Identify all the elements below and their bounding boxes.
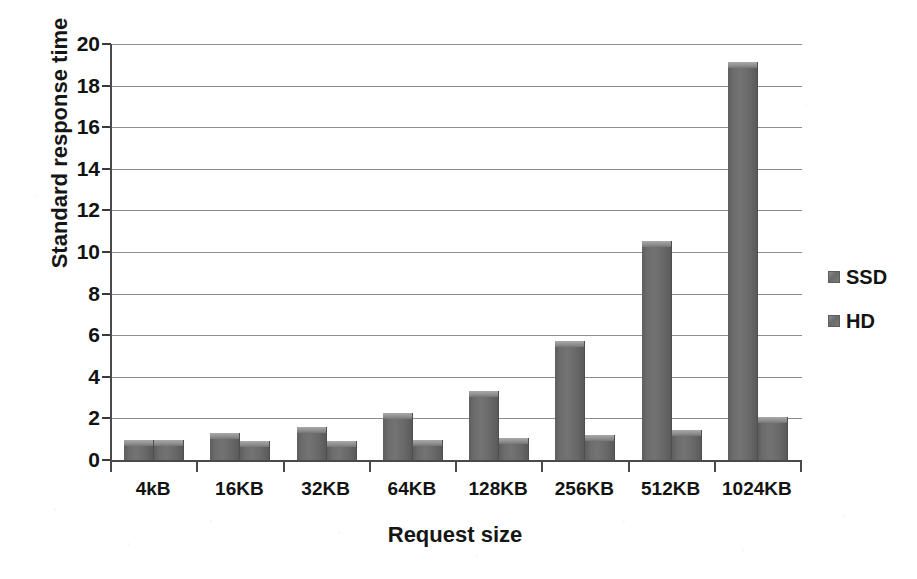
x-axis-tick-labels: 4kB16KB32KB64KB128KB256KB512KB1024KB bbox=[110, 478, 800, 508]
plot-area bbox=[110, 44, 800, 460]
legend-item-hd[interactable]: HD bbox=[828, 312, 913, 330]
x-axis-title: Request size bbox=[110, 522, 800, 548]
bar-hd-4kB[interactable] bbox=[154, 440, 184, 460]
legend-label: SSD bbox=[846, 267, 887, 287]
bar-ssd-256KB[interactable] bbox=[555, 341, 585, 460]
x-axis-tick-mark bbox=[369, 460, 371, 472]
y-axis-tick-label: 18 bbox=[46, 74, 100, 98]
x-axis-tick-mark bbox=[800, 460, 802, 472]
y-axis-tick-label: 20 bbox=[46, 32, 100, 56]
legend-swatch-icon bbox=[828, 271, 840, 283]
y-axis-tick-label: 12 bbox=[46, 198, 100, 222]
bar-ssd-1024KB[interactable] bbox=[728, 62, 758, 460]
bar-hd-512KB[interactable] bbox=[672, 430, 702, 460]
bar-hd-256KB[interactable] bbox=[585, 435, 615, 460]
bar-hd-128KB[interactable] bbox=[499, 438, 529, 460]
bar-group bbox=[371, 44, 457, 460]
bar-group bbox=[716, 44, 802, 460]
bar-ssd-128KB[interactable] bbox=[469, 391, 499, 460]
bar-group bbox=[543, 44, 629, 460]
bar-hd-32KB[interactable] bbox=[327, 441, 357, 460]
legend-swatch-icon bbox=[828, 315, 840, 327]
bar-hd-64KB[interactable] bbox=[413, 440, 443, 460]
x-axis-tick-label-1024KB: 1024KB bbox=[702, 478, 812, 500]
legend: SSDHD bbox=[828, 268, 913, 356]
bar-group bbox=[198, 44, 284, 460]
x-axis-tick-mark bbox=[455, 460, 457, 472]
y-axis-tick-label: 2 bbox=[46, 406, 100, 430]
bar-group bbox=[112, 44, 198, 460]
bar-group bbox=[285, 44, 371, 460]
x-axis-tick-mark bbox=[196, 460, 198, 472]
bar-hd-1024KB[interactable] bbox=[758, 417, 788, 460]
bar-series-container bbox=[112, 44, 802, 460]
x-axis-tick-marks bbox=[110, 460, 800, 474]
bar-ssd-512KB[interactable] bbox=[642, 241, 672, 460]
bar-hd-16KB[interactable] bbox=[240, 441, 270, 460]
legend-item-ssd[interactable]: SSD bbox=[828, 268, 913, 286]
x-axis-tick-mark bbox=[541, 460, 543, 472]
bar-ssd-16KB[interactable] bbox=[210, 433, 240, 460]
bar-group bbox=[630, 44, 716, 460]
y-axis-tick-labels: 02468101214161820 bbox=[46, 0, 100, 579]
y-axis-tick-label: 8 bbox=[46, 282, 100, 306]
x-axis-tick-mark bbox=[110, 460, 112, 472]
y-axis-tick-label: 14 bbox=[46, 157, 100, 181]
x-axis-tick-mark bbox=[283, 460, 285, 472]
y-axis-tick-label: 0 bbox=[46, 448, 100, 472]
legend-label: HD bbox=[846, 311, 875, 331]
bar-ssd-4kB[interactable] bbox=[124, 440, 154, 460]
y-axis-tick-label: 6 bbox=[46, 323, 100, 347]
x-axis-tick-mark bbox=[714, 460, 716, 472]
y-axis-tick-label: 16 bbox=[46, 115, 100, 139]
bar-ssd-32KB[interactable] bbox=[297, 427, 327, 460]
y-axis-tick-label: 4 bbox=[46, 365, 100, 389]
x-axis-tick-mark bbox=[628, 460, 630, 472]
y-axis-tick-label: 10 bbox=[46, 240, 100, 264]
bar-group bbox=[457, 44, 543, 460]
chart-page: Standard response time 02468101214161820… bbox=[0, 0, 917, 579]
bar-ssd-64KB[interactable] bbox=[383, 413, 413, 460]
